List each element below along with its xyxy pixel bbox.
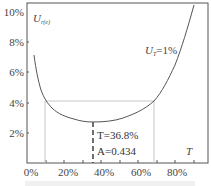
y-axis-label: Ur(e) xyxy=(33,12,50,26)
y-tick-label: 2% xyxy=(9,127,24,139)
caption-remnant xyxy=(25,181,195,186)
chart: 10% 8% 6% 4% 2% 0% 20% 40% 60% 80% Ur(e) xyxy=(0,0,211,186)
y-tick-label: 4% xyxy=(9,97,24,109)
min-a-annotation: A=0.434 xyxy=(97,145,136,157)
y-axis: 10% 8% 6% 4% 2% xyxy=(4,6,29,139)
y-tick-label: 10% xyxy=(4,6,24,18)
curve-label: UT=1% xyxy=(145,44,177,57)
y-tick-label: 8% xyxy=(9,36,24,48)
x-tick-label: 0% xyxy=(24,166,39,178)
curve-ut-1pct xyxy=(34,5,194,122)
x-tick-label: 60% xyxy=(131,166,151,178)
min-t-annotation: T=36.8% xyxy=(97,129,138,141)
y-tick-label: 6% xyxy=(9,66,24,78)
x-tick-label: 40% xyxy=(94,166,114,178)
x-tick-label: 20% xyxy=(58,166,78,178)
x-axis-label: T xyxy=(186,145,193,157)
x-tick-label: 80% xyxy=(167,166,187,178)
